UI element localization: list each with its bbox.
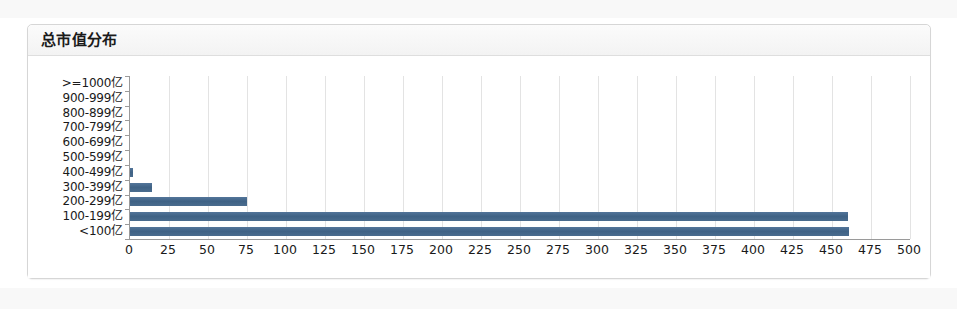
y-axis-tick-label: 300-399亿 — [28, 180, 127, 195]
y-axis-labels: >=1000亿900-999亿800-899亿700-799亿600-699亿5… — [28, 76, 127, 239]
page-background-band-top — [0, 0, 957, 18]
gridline — [910, 76, 911, 239]
x-axis-tick-label: 300 — [585, 242, 609, 258]
x-axis-tick-label: 325 — [624, 242, 648, 258]
x-axis-tick-label: 425 — [780, 242, 804, 258]
y-axis-tick-label: <100亿 — [28, 224, 127, 239]
bar-row — [130, 183, 910, 192]
y-axis-tick-label: 600-699亿 — [28, 135, 127, 150]
panel-body: >=1000亿900-999亿800-899亿700-799亿600-699亿5… — [28, 56, 930, 278]
x-axis-tick-label: 500 — [897, 242, 921, 258]
x-axis-tick-label: 100 — [273, 242, 297, 258]
bar-row — [130, 212, 910, 221]
plot-area — [129, 76, 910, 240]
x-axis-tick-label: 125 — [312, 242, 336, 258]
y-axis-tick-label: 500-599亿 — [28, 150, 127, 165]
x-axis-tick-label: 0 — [125, 242, 133, 258]
y-axis-tick-label: >=1000亿 — [28, 76, 127, 91]
bar[interactable] — [130, 168, 133, 177]
bar-row — [130, 94, 910, 103]
x-axis-tick-label: 150 — [351, 242, 375, 258]
y-axis-tick-label: 800-899亿 — [28, 106, 127, 121]
bar-series — [130, 76, 910, 239]
bar-row — [130, 153, 910, 162]
chart-panel: 总市值分布 >=1000亿900-999亿800-899亿700-799亿600… — [27, 24, 931, 279]
bar-row — [130, 168, 910, 177]
x-axis-tick-label: 475 — [858, 242, 882, 258]
y-axis-tick-label: 100-199亿 — [28, 209, 127, 224]
page-background-band-bottom — [0, 288, 957, 309]
x-axis-tick-label: 200 — [429, 242, 453, 258]
y-axis-tick-label: 900-999亿 — [28, 91, 127, 106]
bar-row — [130, 227, 910, 236]
y-axis-tick-label: 700-799亿 — [28, 120, 127, 135]
x-axis-tick-label: 50 — [199, 242, 215, 258]
bar-chart: >=1000亿900-999亿800-899亿700-799亿600-699亿5… — [28, 56, 932, 278]
x-axis-tick-label: 75 — [238, 242, 254, 258]
y-axis-tick-label: 400-499亿 — [28, 165, 127, 180]
panel-title: 总市值分布 — [41, 30, 118, 50]
x-axis-tick-label: 175 — [390, 242, 414, 258]
panel-header: 总市值分布 — [28, 25, 930, 56]
bar[interactable] — [130, 227, 849, 236]
x-axis-tick-label: 25 — [160, 242, 176, 258]
bar-row — [130, 109, 910, 118]
x-axis-labels: 0255075100125150175200225250275300325350… — [129, 242, 909, 260]
bar-row — [130, 138, 910, 147]
y-axis-tick — [125, 239, 130, 240]
x-axis-tick-label: 350 — [663, 242, 687, 258]
bar[interactable] — [130, 183, 152, 192]
x-axis-tick-label: 275 — [546, 242, 570, 258]
bar[interactable] — [130, 197, 247, 206]
bar-row — [130, 123, 910, 132]
x-axis-tick-label: 250 — [507, 242, 531, 258]
bar-row — [130, 79, 910, 88]
bar-row — [130, 197, 910, 206]
x-axis-tick-label: 225 — [468, 242, 492, 258]
x-axis-tick-label: 450 — [819, 242, 843, 258]
y-axis-tick-label: 200-299亿 — [28, 195, 127, 210]
x-axis-tick-label: 400 — [741, 242, 765, 258]
screenshot-root: 总市值分布 >=1000亿900-999亿800-899亿700-799亿600… — [0, 0, 957, 309]
bar[interactable] — [130, 212, 848, 221]
x-axis-tick-label: 375 — [702, 242, 726, 258]
